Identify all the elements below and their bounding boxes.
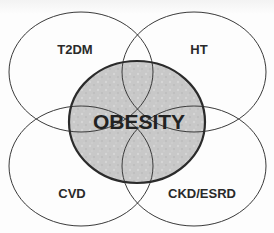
t2dm-label: T2DM xyxy=(57,42,92,57)
venn-svg: T2DM HT CVD CKD/ESRD OBESITY xyxy=(0,0,274,233)
venn-diagram: T2DM HT CVD CKD/ESRD OBESITY xyxy=(0,0,274,233)
ckd-esrd-label: CKD/ESRD xyxy=(168,186,236,201)
cvd-label: CVD xyxy=(58,186,85,201)
ht-label: HT xyxy=(190,42,207,57)
obesity-label: OBESITY xyxy=(93,110,185,133)
